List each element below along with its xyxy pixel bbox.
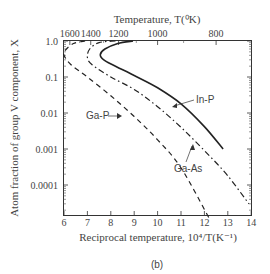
top-axis-ticks: 1600140012001000800: [60, 28, 224, 45]
figure-caption: (b): [151, 259, 163, 270]
x-tick-label: 14: [246, 217, 256, 228]
label-ga-as: Ga-As: [174, 163, 202, 174]
arrowhead-icon: [172, 103, 177, 108]
x-tick-label: 10: [153, 217, 163, 228]
top-tick-label: 1600: [60, 28, 80, 39]
y-tick-label: 0.0001: [31, 180, 59, 191]
x-axis-title: Reciprocal temperature, 10⁴/T(K⁻¹): [79, 231, 237, 244]
x-tick-label: 11: [176, 217, 186, 228]
y-tick-label: 0.001: [36, 144, 59, 155]
arrowhead-icon: [117, 113, 122, 119]
annotation-ga-p: Ga-P: [86, 110, 122, 121]
annotation-ga-as: Ga-As: [174, 144, 202, 174]
arrowhead-icon: [190, 144, 195, 150]
y-axis-title: Atom fraction of group V component, X: [8, 39, 20, 217]
plot-frame: [64, 41, 252, 216]
x-axis-ticks: 67891011121314: [62, 211, 257, 228]
top-tick-label: 1400: [81, 28, 101, 39]
chart: Temperature, T(⁰K) 1600140012001000800 1…: [0, 0, 270, 274]
right-axis-ticks: [247, 41, 252, 210]
y-tick-label: 1.0: [46, 36, 59, 47]
top-tick-label: 800: [209, 28, 224, 39]
y-axis-ticks: 1.00.10.010.0010.0001: [31, 36, 69, 211]
x-tick-label: 12: [199, 217, 209, 228]
y-tick-label: 0.1: [46, 72, 59, 83]
top-axis-title: Temperature, T(⁰K): [114, 13, 201, 26]
x-tick-label: 7: [85, 217, 90, 228]
series-group: [64, 41, 249, 218]
x-tick-label: 9: [132, 217, 137, 228]
x-tick-label: 6: [62, 217, 67, 228]
label-in-p: In-P: [196, 94, 215, 105]
y-tick-label: 0.01: [41, 108, 59, 119]
top-tick-label: 1200: [109, 28, 129, 39]
label-ga-p: Ga-P: [86, 110, 110, 121]
series-ga-p: [64, 41, 210, 218]
x-tick-label: 8: [108, 217, 113, 228]
top-tick-label: 1000: [148, 28, 168, 39]
series-ga-as: [87, 41, 249, 204]
x-tick-label: 13: [223, 217, 233, 228]
